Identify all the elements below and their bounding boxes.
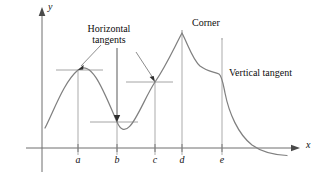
annotation-vertical-tangent: Vertical tangent: [229, 67, 319, 78]
annotation-horizontal-tangents-line2: tangents: [78, 34, 140, 45]
y-axis-arrowhead: [39, 7, 46, 16]
annotation-vertical-tangent-line1: Vertical tangent: [229, 67, 319, 78]
annotation-corner: Corner: [180, 17, 232, 28]
x-axis-label: x: [306, 139, 310, 150]
function-curve: [45, 33, 287, 156]
tick-label-c: c: [145, 154, 165, 165]
x-axis-arrowhead: [291, 145, 300, 152]
leader-arrowheads: [78, 65, 155, 122]
leader-to-a: [81, 45, 101, 66]
arrowhead-b: [114, 115, 120, 122]
arrowhead-c: [150, 76, 155, 82]
annotation-corner-line1: Corner: [180, 17, 232, 28]
graph-canvas: [0, 0, 324, 180]
tick-label-a: a: [68, 154, 88, 165]
axis-group: [26, 7, 300, 172]
tick-label-d: d: [172, 154, 192, 165]
tick-label-b: b: [107, 154, 127, 165]
figure-graph-tangents: y x a b c d e Horizontal tangents Corner…: [0, 0, 324, 180]
annotation-horizontal-tangents-line1: Horizontal: [78, 23, 140, 34]
annotation-horizontal-tangents: Horizontal tangents: [78, 23, 140, 45]
vertical-guides: [78, 33, 222, 155]
y-axis-label: y: [48, 1, 52, 12]
leader-to-c: [136, 52, 153, 78]
tick-label-e: e: [212, 154, 232, 165]
